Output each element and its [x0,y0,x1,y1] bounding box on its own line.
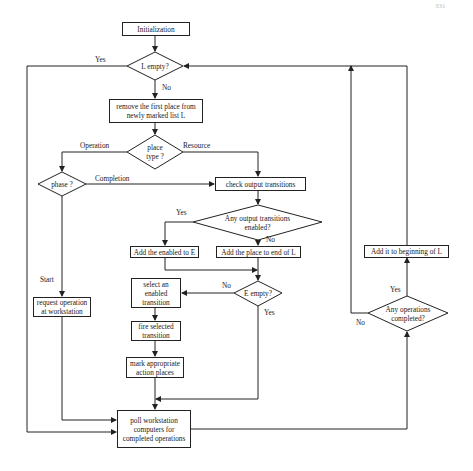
place-type-decision: place type ? [127,135,183,169]
phase-decision: phase ? [38,172,86,196]
e-empty-decision: E empty? [234,281,282,306]
label-start: Start [40,275,54,284]
label-e-empty-yes: Yes [264,308,275,317]
select-enabled-transition-box: select an enabled transition [131,278,181,308]
label-operation: Operation [80,141,109,150]
l-empty-decision: L empty? [127,52,183,80]
any-ops-completed-decision: Any operations completed? [368,296,448,331]
add-to-beginning-of-l-box: Add it to beginning of L [364,245,449,258]
label-any-output-no: No [266,235,275,244]
check-output-transitions-box: check output transitions [215,177,306,191]
add-enabled-to-e-box: Add the enabled to E [130,246,199,258]
request-operation-box: request operation at workstation [33,297,91,317]
label-completion: Completion [95,174,129,183]
page-number: 331 [435,2,446,10]
label-ops-completed-yes: Yes [390,285,401,294]
label-l-empty-yes: Yes [95,55,106,64]
any-output-enabled-decision: Any output transitions enabled? [193,205,322,240]
add-place-end-of-l-box: Add the place to end of L [216,246,301,258]
fire-selected-transition-box: fire selected transition [131,321,181,341]
label-any-output-yes: Yes [176,208,187,217]
mark-action-places-box: mark appropriate action places [126,357,184,378]
label-ops-completed-no: No [356,318,365,327]
label-l-empty-no: No [162,83,171,92]
label-e-empty-no: No [222,281,231,290]
initialization-box: Initialization [122,22,190,36]
label-resource: Resource [183,141,210,150]
poll-workstation-box: poll workstation computers for completed… [117,410,191,448]
remove-first-place-box: remove the first place from newly marked… [109,99,203,123]
